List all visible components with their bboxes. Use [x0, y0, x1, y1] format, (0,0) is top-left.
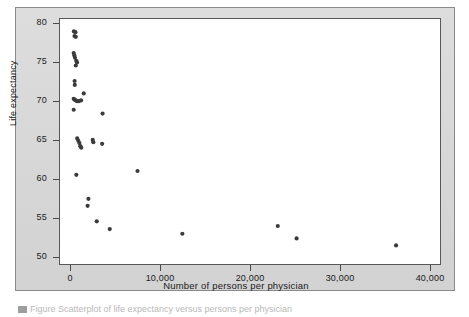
x-tick-mark	[430, 265, 431, 271]
data-point	[86, 197, 90, 201]
y-tick-mark	[53, 140, 59, 141]
y-tick-label: 60	[19, 173, 47, 183]
data-point	[79, 146, 83, 150]
y-tick-mark	[53, 23, 59, 24]
data-point	[100, 142, 104, 146]
y-tick-mark	[53, 218, 59, 219]
data-point	[72, 108, 76, 112]
data-point	[100, 112, 104, 116]
data-point	[73, 83, 77, 87]
data-point	[394, 243, 398, 247]
y-tick-mark	[53, 179, 59, 180]
y-tick-label: 55	[19, 212, 47, 222]
y-tick-label: 65	[19, 134, 47, 144]
x-tick-mark	[250, 265, 251, 271]
x-tick-mark	[160, 265, 161, 271]
data-point	[74, 63, 78, 67]
y-axis-title: Life expectancy	[8, 60, 18, 126]
data-point	[74, 35, 78, 39]
y-tick-mark	[53, 101, 59, 102]
data-point	[108, 227, 112, 231]
y-tick-mark	[53, 257, 59, 258]
plot-area	[59, 18, 441, 265]
x-axis-title: Number of persons per physician	[16, 280, 456, 291]
data-point	[276, 224, 280, 228]
scatter-plot-series	[60, 19, 440, 264]
data-point	[91, 140, 95, 144]
data-point	[73, 30, 77, 34]
y-tick-label: 70	[19, 95, 47, 105]
figure-caption-artifact: Figure Scatterplot of life expectancy ve…	[18, 304, 438, 314]
y-tick-label: 80	[19, 17, 47, 27]
caption-text: Figure Scatterplot of life expectancy ve…	[30, 304, 292, 314]
y-tick-label: 50	[19, 251, 47, 261]
y-tick-label: 75	[19, 56, 47, 66]
data-point	[74, 173, 78, 177]
data-point	[180, 232, 184, 236]
y-tick-mark	[53, 62, 59, 63]
data-point	[135, 169, 139, 173]
data-point	[95, 219, 99, 223]
x-tick-mark	[70, 265, 71, 271]
caption-bullet-icon	[18, 306, 27, 313]
data-point	[295, 236, 299, 240]
data-point	[82, 91, 86, 95]
figure-panel: Life expectancy 80757065605550 010,00020…	[15, 7, 455, 291]
data-point	[86, 204, 90, 208]
x-tick-mark	[340, 265, 341, 271]
data-point	[73, 79, 77, 83]
data-point	[79, 98, 83, 102]
